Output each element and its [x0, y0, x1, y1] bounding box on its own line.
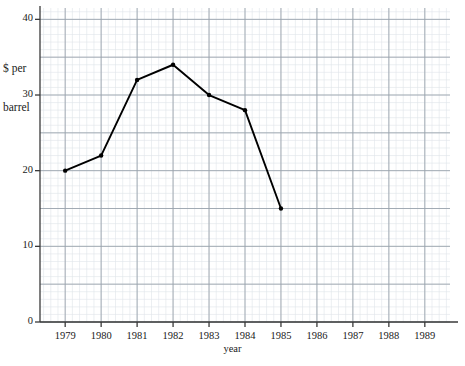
data-point [171, 63, 175, 67]
x-tick-label: 1985 [261, 330, 301, 341]
data-point [63, 168, 67, 172]
x-tick-label: 1983 [189, 330, 229, 341]
x-tick-label: 1987 [333, 330, 373, 341]
major-gridlines [40, 8, 450, 322]
x-tick-label: 1988 [369, 330, 409, 341]
x-tick-label: 1981 [117, 330, 157, 341]
line-chart: $ per barrel year 010203040 197919801981… [0, 0, 465, 366]
x-tick-label: 1982 [153, 330, 193, 341]
y-tick-label: 0 [3, 315, 33, 326]
x-tick-label: 1984 [225, 330, 265, 341]
x-tick-label: 1989 [405, 330, 445, 341]
data-point [207, 93, 211, 97]
data-point [243, 108, 247, 112]
x-tick-label: 1986 [297, 330, 337, 341]
x-tick-label: 1980 [81, 330, 121, 341]
axis-lines [35, 6, 458, 327]
x-tick-label: 1979 [45, 330, 85, 341]
data-point [279, 206, 283, 210]
y-tick-label: 20 [3, 164, 33, 175]
data-point [135, 78, 139, 82]
plot-area [0, 0, 465, 366]
data-point [99, 153, 103, 157]
y-tick-label: 30 [3, 88, 33, 99]
y-tick-label: 40 [3, 12, 33, 23]
y-tick-label: 10 [3, 239, 33, 250]
